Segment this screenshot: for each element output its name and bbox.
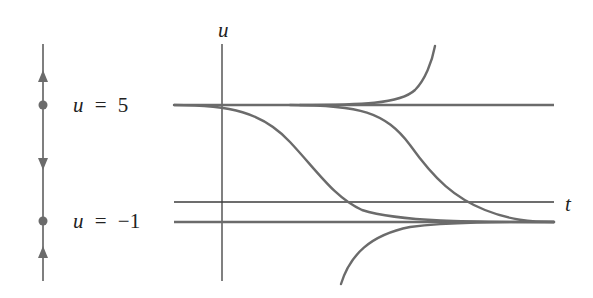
t-axis-label: t (565, 192, 572, 216)
equilibrium-dot-u5 (39, 101, 48, 110)
arrow-up-icon (38, 70, 48, 82)
arrow-down-icon (38, 158, 48, 170)
figure: u = 5 u = −1 u t (0, 0, 593, 298)
equilibrium-dot-u-minus-1 (39, 217, 48, 226)
u-axis-label: u (218, 18, 229, 42)
solution-curve-between-1 (174, 105, 554, 222)
label-u5: u = 5 (73, 93, 128, 117)
solution-curve-between-2 (290, 105, 554, 222)
diagram-canvas: u = 5 u = −1 u t (0, 0, 593, 298)
phase-line (38, 44, 48, 281)
solution-curve-above-u5 (300, 46, 435, 105)
label-u-minus-1: u = −1 (73, 209, 140, 233)
solution-curve-below-u-minus-1 (341, 222, 554, 284)
arrow-up-icon (38, 246, 48, 258)
